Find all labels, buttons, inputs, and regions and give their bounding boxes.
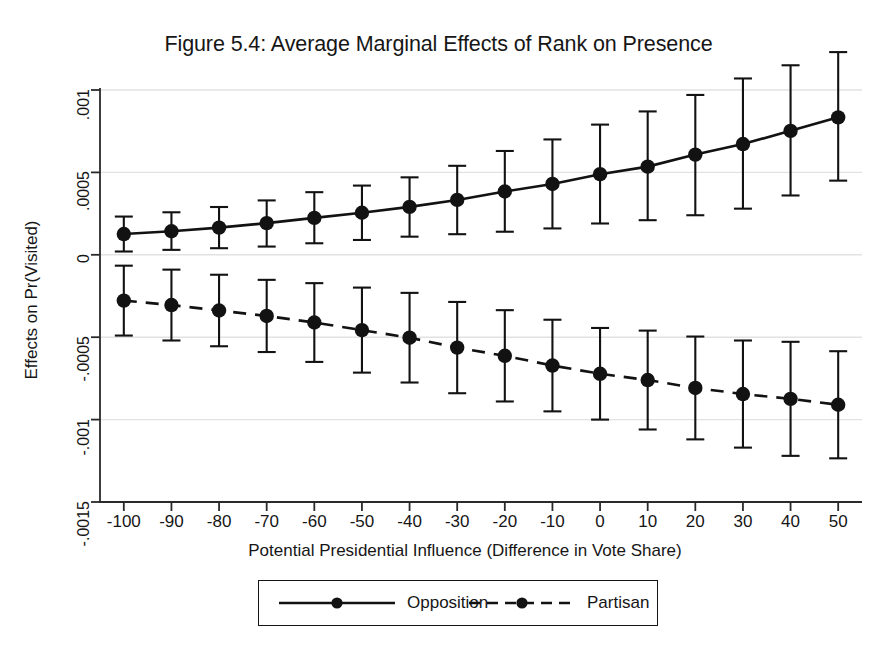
series-opposition [115, 52, 847, 251]
y-tick-label: 0 [75, 254, 93, 334]
data-point [402, 200, 416, 214]
data-point [450, 193, 464, 207]
data-point [355, 323, 369, 337]
data-point [117, 227, 131, 241]
data-point [545, 358, 559, 372]
data-point [736, 137, 750, 151]
data-point [688, 381, 702, 395]
data-point [831, 398, 845, 412]
data-point [831, 110, 845, 124]
y-tick-label: -.001 [75, 419, 93, 499]
series-line [124, 117, 838, 234]
data-point [259, 309, 273, 323]
data-point [164, 298, 178, 312]
data-point [783, 392, 797, 406]
plot-area [0, 0, 877, 649]
data-point [212, 303, 226, 317]
legend-entry-partisan: Partisan [467, 581, 649, 625]
legend-sample-opposition [277, 593, 397, 613]
data-point [117, 293, 131, 307]
legend: Opposition Partisan [258, 580, 658, 626]
data-point [212, 220, 226, 234]
data-point [640, 373, 654, 387]
data-point [736, 387, 750, 401]
data-point [640, 159, 654, 173]
y-tick-label: .001 [75, 89, 93, 169]
data-point [355, 206, 369, 220]
data-point [307, 211, 321, 225]
legend-label-partisan: Partisan [587, 593, 649, 613]
y-tick-label: -.0005 [75, 336, 93, 416]
data-point [164, 224, 178, 238]
data-point [593, 167, 607, 181]
data-point [593, 367, 607, 381]
data-point [783, 124, 797, 138]
y-tick-label: .0005 [75, 171, 93, 251]
data-point [402, 330, 416, 344]
legend-sample-partisan [467, 593, 577, 613]
series-partisan [115, 266, 847, 459]
data-point [307, 315, 321, 329]
data-point [688, 147, 702, 161]
data-point [450, 340, 464, 354]
y-tick-label: -.0015 [75, 501, 93, 581]
data-point [259, 216, 273, 230]
data-point [498, 184, 512, 198]
data-point [498, 349, 512, 363]
data-point [545, 177, 559, 191]
series-line [124, 301, 838, 405]
figure-container: Figure 5.4: Average Marginal Effects of … [0, 0, 877, 649]
x-tick-label: 50 [808, 512, 868, 532]
legend-entry-opposition: Opposition [277, 581, 488, 625]
